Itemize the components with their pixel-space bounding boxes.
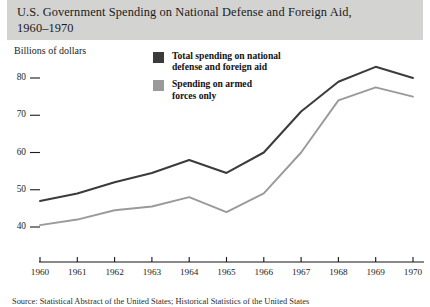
x-tick-label: 1970 [393, 267, 430, 277]
series-line-total-spending [40, 67, 413, 201]
series-line-armed-forces [40, 87, 413, 225]
source-note: Source: Statistical Abstract of the Unit… [12, 297, 422, 307]
x-tick-label: 1965 [207, 267, 247, 277]
x-tick-label: 1966 [244, 267, 284, 277]
y-tick-label: 50 [6, 184, 26, 194]
x-tick-label: 1967 [281, 267, 321, 277]
x-tick-label: 1961 [57, 267, 97, 277]
x-tick-label: 1962 [95, 267, 135, 277]
chart-svg [0, 0, 430, 307]
y-tick-label: 60 [6, 147, 26, 157]
y-tick-label: 80 [6, 72, 26, 82]
x-tick-label: 1964 [169, 267, 209, 277]
x-tick-label: 1968 [318, 267, 358, 277]
figure-container: U.S. Government Spending on National Def… [0, 0, 430, 307]
y-tick-label: 70 [6, 109, 26, 119]
x-tick-label: 1969 [356, 267, 396, 277]
x-tick-label: 1960 [20, 267, 60, 277]
plot-area [0, 0, 430, 307]
x-tick-label: 1963 [132, 267, 172, 277]
y-tick-label: 40 [6, 221, 26, 231]
